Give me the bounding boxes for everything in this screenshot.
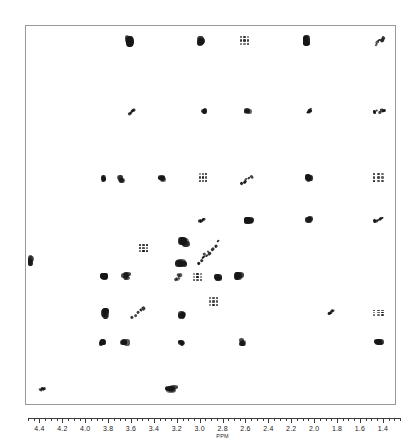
axis-tick-minor: [377, 418, 378, 421]
axis-tick-major: [360, 418, 361, 423]
axis-tick-major: [85, 418, 86, 423]
peak-contour: [146, 247, 148, 249]
axis-tick-minor: [394, 418, 395, 421]
cross-peak: [165, 385, 179, 393]
cross-peak: [238, 172, 255, 188]
peak-contour: [160, 177, 166, 182]
peak-contour: [131, 107, 136, 112]
cross-peak: [209, 297, 219, 307]
cross-peak: [177, 340, 185, 347]
peak-contour: [182, 241, 190, 247]
peak-contour: [373, 180, 376, 183]
peak-contour: [381, 176, 384, 179]
cross-peak: [304, 106, 314, 117]
peak-contour: [377, 314, 380, 316]
cross-peak: [125, 106, 136, 117]
peak-contour: [196, 273, 199, 275]
axis-tick-major: [383, 418, 384, 423]
axis-tick-minor: [354, 418, 355, 421]
axis-tick-label: 3.0: [195, 425, 205, 432]
axis-tick-major: [337, 418, 338, 423]
peak-contour: [377, 173, 380, 176]
cross-peak: [303, 35, 311, 47]
cross-peak: [139, 244, 149, 253]
axis-tick-major: [223, 418, 224, 423]
axis-tick-label: 2.4: [263, 425, 273, 432]
cross-peak: [37, 384, 46, 393]
axis-tick-minor: [183, 418, 184, 421]
cross-peak: [373, 173, 386, 184]
x-axis: 4.44.24.03.83.63.43.23.02.82.62.42.22.01…: [0, 405, 417, 445]
cross-peak: [171, 270, 185, 284]
peak-contour: [139, 244, 141, 246]
peak-contour: [243, 39, 246, 42]
peak-contour: [373, 173, 376, 176]
axis-line: [28, 418, 400, 419]
axis-tick-minor: [251, 418, 252, 421]
axis-tick-major: [39, 418, 40, 423]
peak-contour: [377, 310, 380, 312]
peak-contour: [205, 176, 207, 179]
axis-tick-minor: [286, 418, 287, 421]
axis-tick-minor: [234, 418, 235, 421]
peak-contour: [200, 276, 203, 278]
cross-peak: [244, 108, 252, 115]
axis-tick-label: 4.4: [34, 425, 44, 432]
axis-tick-label: 1.4: [378, 425, 388, 432]
axis-tick-minor: [165, 418, 166, 421]
axis-tick-label: 4.2: [57, 425, 67, 432]
axis-tick-minor: [91, 418, 92, 421]
axis-tick-label: 2.0: [309, 425, 319, 432]
cross-peak: [100, 175, 107, 183]
cross-peak: [101, 307, 109, 320]
peak-contour: [308, 216, 313, 221]
axis-tick-minor: [280, 418, 281, 421]
axis-tick-minor: [45, 418, 46, 421]
axis-unit-label: PPM: [216, 433, 229, 439]
peak-contour: [247, 36, 250, 39]
cross-peak: [197, 35, 205, 47]
peak-contour: [119, 178, 125, 183]
peak-contour: [142, 250, 144, 252]
peak-contour: [205, 173, 207, 176]
peak-contour: [209, 304, 211, 306]
peak-contour: [377, 176, 380, 179]
cross-peak: [125, 35, 134, 48]
peak-contour: [247, 39, 250, 42]
peak-contour: [139, 250, 141, 252]
cross-peak: [372, 106, 386, 116]
peak-contour: [377, 180, 380, 183]
peak-contour: [102, 308, 109, 315]
axis-tick-major: [268, 418, 269, 423]
axis-tick-minor: [308, 418, 309, 421]
peak-contour: [212, 304, 214, 306]
axis-tick-label: 3.6: [126, 425, 136, 432]
cross-peak: [199, 173, 208, 184]
axis-tick-minor: [297, 418, 298, 421]
peak-contour: [200, 279, 203, 281]
cross-peak: [28, 255, 35, 267]
axis-tick-label: 1.6: [355, 425, 365, 432]
cross-peak: [121, 272, 131, 281]
axis-tick-major: [131, 418, 132, 423]
axis-tick-minor: [160, 418, 161, 421]
peak-contour: [236, 272, 244, 278]
axis-tick-minor: [348, 418, 349, 421]
peak-contour: [198, 38, 204, 45]
peak-contour: [240, 43, 243, 46]
peak-contour: [102, 177, 106, 181]
axis-tick-minor: [205, 418, 206, 421]
peak-contour: [243, 36, 246, 39]
peak-contour: [244, 217, 250, 224]
peak-contour: [209, 297, 211, 299]
peak-contour: [381, 314, 384, 316]
cross-peak: [158, 175, 166, 183]
peak-contour: [381, 310, 384, 312]
peak-contour: [216, 297, 218, 299]
axis-tick-minor: [137, 418, 138, 421]
cross-peak: [196, 214, 208, 226]
peak-contour: [193, 279, 196, 281]
axis-tick-minor: [188, 418, 189, 421]
peak-contour: [205, 180, 207, 183]
axis-tick-minor: [28, 418, 29, 421]
